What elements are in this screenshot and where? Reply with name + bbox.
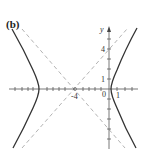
y-axis-label: y [99, 25, 104, 34]
right-branch [111, 28, 137, 148]
x-tick-label-neg4: -4 [71, 92, 78, 101]
y-tick-label-4: 4 [101, 45, 105, 54]
x-tick-label-1: 1 [116, 91, 120, 100]
origin-label: 0 [102, 90, 106, 99]
panel-label: (b) [6, 18, 20, 31]
left-branch [12, 29, 39, 148]
y-tick-label-1: 1 [101, 75, 105, 84]
y-axis-arrow-icon [107, 26, 111, 32]
hyperbola-figure: (b) [0, 0, 150, 158]
